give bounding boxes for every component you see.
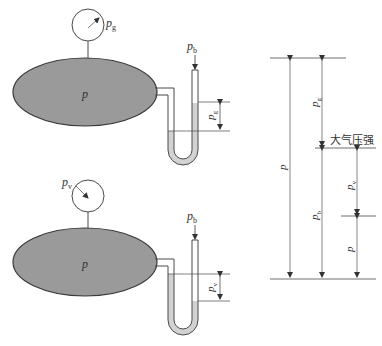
p-vacuum-label: p: [343, 246, 355, 253]
p-label: p: [276, 164, 288, 171]
vacuum-height-dimension-label: pv: [204, 283, 219, 294]
vessel-pressure-label: p: [81, 87, 88, 101]
pg-label: pg: [308, 98, 323, 109]
pb-label: pb: [308, 211, 323, 222]
atmospheric-pressure-label: pb: [186, 39, 197, 55]
top-panel-gauge-pressure: pg p pb pg: [13, 9, 230, 165]
u-tube-manometer-bottom: [155, 240, 230, 335]
bottom-panel-vacuum: pv p pb pv: [13, 175, 230, 335]
vacuum-gauge-icon: [72, 180, 104, 228]
right-panel-pressure-relations: p pg pb pv p 大气压强: [270, 58, 376, 279]
atmospheric-pressure-text: 大气压强: [330, 133, 374, 147]
height-dimension-label: pg: [204, 111, 219, 122]
vessel-pressure-label-bottom: p: [81, 257, 88, 271]
pressure-gauge-icon: [72, 9, 104, 58]
pressure-measurement-diagram: pg p pb pg pv p: [0, 0, 382, 346]
gauge-reading-label: pg: [105, 16, 116, 32]
vacuum-reading-label: pv: [61, 175, 72, 191]
u-tube-manometer: [155, 70, 230, 165]
atmospheric-pressure-label-bottom: pb: [186, 209, 197, 225]
pv-label: pv: [343, 181, 358, 192]
